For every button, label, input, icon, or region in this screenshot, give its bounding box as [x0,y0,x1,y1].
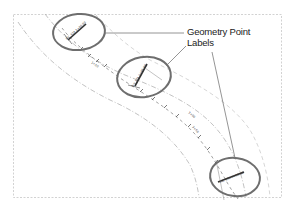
callout-label-line2: Labels [187,37,250,48]
station-ticks [80,47,218,163]
station-label: 3+00 [187,111,196,119]
leader-line-2 [166,46,186,66]
geometry-point-2: P.T. STA 2+85.00 [114,53,174,102]
centerline-alignment [62,28,238,199]
callout-label-line1: Geometry Point [187,26,250,37]
point-label: P.T. STA 2+85.00 [131,64,147,88]
drawing-canvas: 1+50 3+00 3+50 P.C. STA 1+00.00 P.T. STA… [0,0,295,204]
plan-drawing: 1+50 3+00 3+50 P.C. STA 1+00.00 P.T. STA… [0,0,295,204]
highlight-ellipse [114,53,174,102]
geometry-point-3: P.C. STA 4+50.00 [208,155,263,200]
point-label: P.C. STA 4+50.00 [219,171,245,184]
offset-line-left [18,22,199,197]
callout-label: Geometry Point Labels [187,26,250,48]
point-label: P.C. STA 1+00.00 [65,20,87,40]
station-label: 3+50 [191,125,200,134]
leader-line-3 [212,52,235,158]
